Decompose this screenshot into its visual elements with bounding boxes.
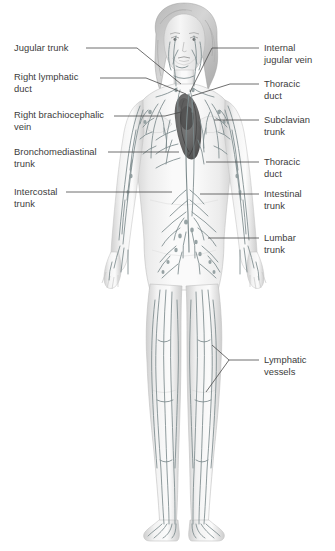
label-right-brachiocephalic-vein: Right brachiocephalic vein	[14, 109, 104, 132]
label-thoracic-duct-lower: Thoracic duct	[264, 156, 300, 179]
label-intestinal-trunk: Intestinal trunk	[264, 188, 302, 211]
label-internal-jugular-vein: Internal jugular vein	[264, 42, 312, 65]
label-intercostal-trunk: Intercostal trunk	[14, 186, 57, 209]
label-right-lymphatic-duct: Right lymphatic duct	[14, 71, 78, 94]
label-subclavian-trunk: Subclavian trunk	[264, 114, 310, 137]
label-bronchomediastinal-trunk: Bronchomediastinal trunk	[14, 146, 97, 169]
label-thoracic-duct-upper: Thoracic duct	[264, 78, 300, 101]
lymphatic-system-figure: Jugular trunk Right lymphatic duct Right…	[0, 0, 335, 551]
label-lumbar-trunk: Lumbar trunk	[264, 232, 296, 255]
head-and-face	[164, 14, 205, 73]
label-lymphatic-vessels: Lymphatic vessels	[264, 354, 307, 377]
label-jugular-trunk: Jugular trunk	[14, 42, 68, 54]
